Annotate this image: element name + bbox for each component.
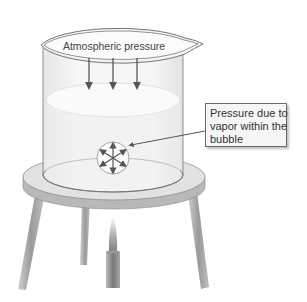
flame-icon — [109, 216, 117, 252]
atmospheric-pressure-label: Atmospheric pressure — [63, 40, 165, 52]
liquid-surface — [46, 83, 180, 117]
bunsen-burner — [106, 216, 120, 288]
callout-line-1: Pressure due to — [210, 107, 282, 120]
vapor-pressure-callout: Pressure due to vapor within the bubble — [205, 103, 287, 147]
vapor-bubble — [97, 142, 129, 174]
callout-line-2: vapor within the — [210, 120, 282, 133]
boiling-diagram: Atmospheric pressure — [0, 0, 307, 302]
callout-line-3: bubble — [210, 133, 282, 146]
